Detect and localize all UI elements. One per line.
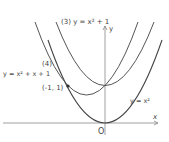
curve3-label: (3) y = x² + 1 xyxy=(61,18,109,26)
x-axis-label: x xyxy=(152,113,158,121)
origin-label: O xyxy=(98,127,104,136)
intersection-point xyxy=(66,84,69,87)
curve4-equation: y = x² + x + 1 xyxy=(3,70,50,78)
y-axis-label: y xyxy=(109,25,113,33)
point-label: (-1, 1) xyxy=(42,84,64,92)
parabola-diagram: (3) y = x² + 1 y (4) y = x² + x + 1 (-1,… xyxy=(0,0,169,142)
curve4-number: (4) xyxy=(42,60,52,68)
base-curve-label: y = x² xyxy=(130,97,150,105)
